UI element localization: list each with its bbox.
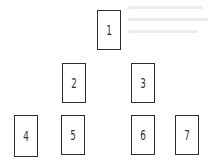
background-ghost-text	[128, 6, 203, 9]
node-label: 7	[184, 128, 190, 142]
node-6: 6	[131, 115, 155, 155]
node-5: 5	[61, 115, 85, 155]
node-7: 7	[175, 115, 199, 155]
node-label: 4	[23, 129, 29, 143]
node-1: 1	[97, 10, 121, 50]
node-label: 3	[140, 76, 146, 90]
node-3: 3	[131, 63, 155, 103]
node-label: 1	[106, 23, 112, 37]
node-4: 4	[14, 115, 38, 157]
background-ghost-text	[128, 18, 208, 21]
node-label: 6	[140, 128, 146, 142]
node-label: 2	[71, 76, 77, 90]
node-2: 2	[62, 63, 86, 103]
node-label: 5	[70, 128, 76, 142]
background-ghost-text	[128, 30, 198, 33]
